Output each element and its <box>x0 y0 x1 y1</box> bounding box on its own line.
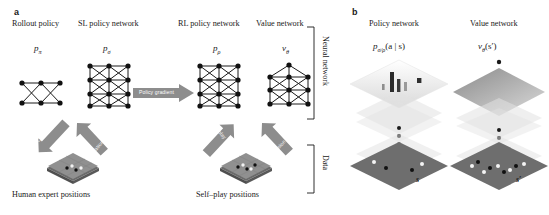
formula-policy-network: pσ/ρ(a | s) <box>373 42 405 53</box>
symbol-value-network-sub: θ <box>286 48 289 55</box>
column-title-value-network: Value network <box>256 20 304 28</box>
symbol-sl-policy: pσ <box>103 44 111 55</box>
panel-b-column-title-policy-network: Policy network <box>369 20 419 28</box>
arrow-label-policy-gradient: Policy gradient <box>139 89 174 95</box>
label-human-expert-positions: Human expert positions <box>12 191 90 199</box>
network-glyph-rollout-policy <box>18 78 64 108</box>
network-glyph-rl-policy-network <box>196 62 242 110</box>
column-title-rollout-policy: Rollout policy <box>12 20 59 28</box>
bracket-label-data: Data <box>321 155 329 170</box>
bracket-neural-network <box>306 26 315 120</box>
formula-policy-network-args: (a | s) <box>385 41 405 51</box>
symbol-rl-policy: pρ <box>213 44 220 55</box>
symbol-rollout-policy-sub: π <box>39 48 42 55</box>
symbol-value-network: vθ <box>282 44 289 55</box>
column-title-sl-policy-network: SL policy network <box>78 20 139 28</box>
formula-value-network-args: (s′) <box>485 41 496 51</box>
board-self-play-positions <box>218 152 274 186</box>
pyramid-policy-network <box>346 56 452 174</box>
bracket-label-neural-network: Neural network <box>321 36 329 86</box>
column-title-rl-policy-network: RL policy network <box>178 20 240 28</box>
pyramid-value-network <box>446 56 549 174</box>
symbol-rl-policy-sub: ρ <box>218 48 221 55</box>
panel-b-column-title-value-network: Value network <box>470 20 518 28</box>
state-label-s: s <box>416 176 419 184</box>
symbol-rollout-policy: pπ <box>34 44 42 55</box>
panel-b-letter: b <box>352 8 358 17</box>
state-label-s-prime: s′ <box>516 176 521 184</box>
formula-value-network: vθ(s′) <box>478 42 497 53</box>
network-glyph-sl-policy-network <box>86 62 132 110</box>
label-self-play-positions: Self–play positions <box>196 191 259 199</box>
board-human-expert-positions <box>45 152 101 186</box>
figure-alphago-pipeline: a Rollout policy SL policy network RL po… <box>0 0 549 215</box>
bracket-data <box>306 144 315 194</box>
panel-a-letter: a <box>14 8 19 17</box>
symbol-sl-policy-sub: σ <box>108 48 111 55</box>
